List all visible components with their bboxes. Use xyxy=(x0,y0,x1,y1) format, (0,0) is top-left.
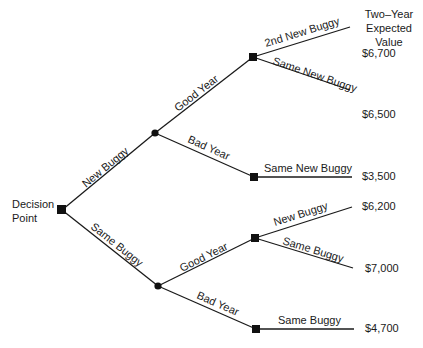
label-sb-bad-same: Same Buggy xyxy=(278,314,341,326)
chance-node-new-buggy xyxy=(151,129,158,136)
decision-node-sb-good xyxy=(251,234,259,242)
value-2: $6,500 xyxy=(362,108,396,120)
decision-node-nb-bad xyxy=(250,173,258,181)
label-nb-good-year: Good Year xyxy=(172,72,221,114)
decision-node-sb-bad xyxy=(252,325,260,333)
decision-node-nb-good xyxy=(249,53,257,61)
label-nb-good-2nd: 2nd New Buggy xyxy=(263,14,341,49)
edge-same-buggy xyxy=(62,210,158,286)
label-new-buggy: New Buggy xyxy=(80,144,131,189)
value-5: $7,000 xyxy=(365,262,399,274)
value-6: $4,700 xyxy=(365,322,399,334)
value-1: $6,700 xyxy=(362,47,396,59)
label-nb-good-same: Same New Buggy xyxy=(271,55,359,95)
chance-node-same-buggy xyxy=(154,282,161,289)
label-nb-bad-same: Same New Buggy xyxy=(264,162,353,174)
decision-tree: New Buggy Same Buggy Good Year Bad Year … xyxy=(0,0,423,348)
value-4: $6,200 xyxy=(362,200,396,212)
label-same-buggy: Same Buggy xyxy=(89,220,146,269)
label-sb-bad-year: Bad Year xyxy=(195,289,241,318)
edge-nb-good-year xyxy=(155,57,253,133)
label-sb-good-year: Good Year xyxy=(178,240,230,274)
decision-node-root xyxy=(57,205,66,214)
value-3: $3,500 xyxy=(362,170,396,182)
